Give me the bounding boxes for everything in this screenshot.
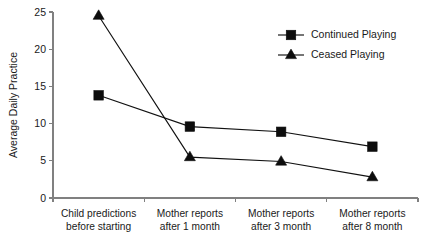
series-line [99, 16, 373, 177]
data-point-marker [94, 91, 104, 101]
legend-item[interactable]: Continued Playing [278, 28, 396, 40]
legend-marker [286, 49, 297, 59]
data-point-marker [276, 156, 287, 166]
chart-legend: Continued PlayingCeased Playing [278, 28, 396, 60]
x-tick-label: Mother reports [248, 208, 314, 219]
y-tick-label: 10 [34, 117, 46, 129]
x-tick-label: before starting [66, 221, 131, 232]
data-point-marker [93, 10, 104, 20]
data-point-marker [276, 127, 286, 137]
y-tick-label: 25 [34, 6, 46, 18]
y-tick-label: 20 [34, 43, 46, 55]
series-1 [94, 91, 377, 152]
legend-marker [286, 30, 296, 40]
x-axis-tick-labels: Child predictionsbefore startingMother r… [61, 208, 406, 232]
y-axis-title: Average Daily Practice [7, 52, 19, 158]
x-tick-label: Mother reports [157, 208, 223, 219]
legend-label: Continued Playing [311, 28, 396, 40]
y-tick-label: 0 [40, 192, 46, 204]
x-tick-label: after 8 month [342, 221, 402, 232]
x-tick-label: after 3 month [251, 221, 311, 232]
y-tick-label: 5 [40, 154, 46, 166]
y-axis: 0510152025 [34, 6, 53, 204]
x-tick-label: Child predictions [61, 208, 136, 219]
legend-label: Ceased Playing [311, 48, 385, 60]
data-point-marker [185, 122, 195, 131]
data-point-marker [368, 142, 378, 152]
y-tick-label: 15 [34, 80, 46, 92]
legend-item[interactable]: Ceased Playing [278, 48, 385, 60]
x-axis [53, 198, 418, 202]
chart-container: 0510152025 Average Daily Practice Child … [0, 0, 421, 243]
series-line [99, 95, 373, 146]
x-tick-label: after 1 month [160, 221, 220, 232]
y-axis-title-text: Average Daily Practice [7, 52, 19, 158]
line-chart: 0510152025 Average Daily Practice Child … [0, 0, 421, 243]
data-point-marker [184, 151, 195, 161]
x-tick-label: Mother reports [339, 208, 405, 219]
